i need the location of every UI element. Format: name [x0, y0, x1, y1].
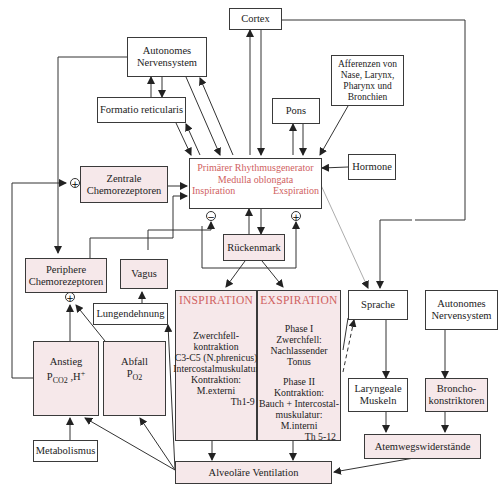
node-zentrale-chemorezeptoren: Zentrale Chemorezeptoren — [80, 166, 168, 203]
inspiration-title: INSPIRATION — [179, 294, 253, 306]
abfall-formula: PO2 — [127, 368, 143, 384]
node-rhythmusgenerator: Primärer Rhythmusgenerator Medulla oblon… — [189, 158, 322, 209]
h-symbol: ,H — [68, 371, 81, 382]
node-atemwegs-label: Atemwegswiderstände — [375, 441, 471, 453]
label-line-4: Bronchien — [348, 92, 388, 103]
plus-superscript: + — [81, 369, 86, 378]
label-line-2: konstriktoren — [429, 395, 485, 407]
label-line-1: Autonomes — [143, 45, 191, 57]
node-cortex: Cortex — [229, 8, 282, 30]
detail-line: Kontraktion: M.externi — [173, 374, 258, 396]
node-cortex-label: Cortex — [241, 13, 270, 25]
label-line-2: Nervensystem — [431, 310, 491, 322]
node-bronchokonstriktoren: Broncho- konstriktoren — [425, 378, 488, 412]
node-pons-label: Pons — [286, 105, 306, 117]
label-line-2: Chemorezeptoren — [87, 185, 162, 197]
node-afferenzen: Afferenzen von Nase, Larynx, Pharynx und… — [331, 55, 404, 106]
node-metabolismus: Metabolismus — [33, 440, 98, 462]
exspiration-title: EXSPIRATION — [260, 294, 337, 306]
exspiration-details: Phase I Zwerchfell: Nachlassender Tonus … — [258, 323, 340, 442]
detail-line: Th 5-12 — [258, 431, 340, 442]
node-hormone: Hormone — [348, 154, 396, 180]
label-line-2: Muskeln — [360, 395, 397, 407]
node-formatio-label: Formatio reticularis — [100, 104, 183, 116]
rhythm-exspiration: Exspiration — [273, 185, 319, 197]
detail-line: Intercostalmuskulatur — [173, 363, 258, 374]
detail-line: Nachlassender Tonus — [258, 345, 340, 367]
node-sprache-label: Sprache — [361, 299, 395, 311]
rhythm-subtitle: Medulla oblongata — [218, 174, 293, 186]
node-formatio-reticularis: Formatio reticularis — [97, 97, 186, 123]
plus-symbol-periphere: + — [65, 292, 75, 302]
node-vagus: Vagus — [120, 259, 168, 289]
label-line-1: Autonomes — [437, 298, 485, 310]
o2-subscript: O2 — [133, 373, 143, 382]
detail-line: Zwerchfell: — [258, 334, 340, 345]
node-autonomes-nervensystem-right: Autonomes Nervensystem — [425, 290, 498, 330]
label-line-2: Chemorezeptoren — [29, 276, 104, 288]
node-atemwegswiderstaende: Atemwegswiderstände — [364, 434, 481, 459]
spacer — [258, 367, 340, 376]
node-periphere-chemorezeptoren: Periphere Chemorezeptoren — [25, 258, 107, 293]
detail-line: kontraktion — [173, 341, 258, 352]
anstieg-formula: PCO2 ,H+ — [47, 368, 85, 387]
node-rueckenmark-label: Rückenmark — [227, 242, 281, 254]
rhythm-title: Primärer Rhythmusgenerator — [197, 162, 313, 174]
detail-line: muskulatur: M.interni — [258, 409, 340, 431]
node-alveolaere-ventilation: Alveoläre Ventilation — [175, 461, 332, 484]
plus-symbol-zentrale: + — [70, 178, 80, 188]
node-autonomes-nervensystem-top: Autonomes Nervensystem — [127, 37, 207, 77]
node-sprache: Sprache — [348, 290, 408, 320]
detail-line: C3-C5 (N.phrenicus) — [173, 352, 258, 363]
node-anstieg-pco2: Anstieg PCO2 ,H+ — [33, 341, 99, 416]
minus-symbol: − — [206, 211, 216, 221]
label-line-1: Laryngeale — [354, 383, 401, 395]
label-line-1: Periphere — [46, 264, 86, 276]
detail-line: Phase II — [258, 376, 340, 387]
node-hormone-label: Hormone — [352, 161, 392, 173]
rhythm-inspiration: Inspiration — [192, 185, 235, 197]
label-line-2: Nervensystem — [137, 57, 197, 69]
detail-line: Bauch + Intercostal- — [258, 398, 340, 409]
detail-line: Th1-9 — [173, 396, 258, 407]
label-line-1: Zentrale — [107, 173, 142, 185]
node-rueckenmark: Rückenmark — [223, 234, 285, 261]
node-laryngeale-muskeln: Laryngeale Muskeln — [348, 378, 408, 412]
label-line-3: Pharynx und — [343, 81, 391, 92]
co2-subscript: CO2 — [53, 376, 68, 385]
inspiration-details: Zwerchfell- kontraktion C3-C5 (N.phrenic… — [173, 330, 258, 407]
respiration-control-diagram: Cortex Autonomes Nervensystem Formatio r… — [0, 0, 498, 491]
detail-line: Phase I — [258, 323, 340, 334]
detail-line: Kontraktion: — [258, 387, 340, 398]
node-vagus-label: Vagus — [131, 268, 157, 280]
node-pons: Pons — [272, 98, 320, 124]
detail-line: Zwerchfell- — [173, 330, 258, 341]
node-alveolaere-label: Alveoläre Ventilation — [209, 467, 299, 479]
label-line-1: Afferenzen von — [338, 59, 397, 70]
node-metabolismus-label: Metabolismus — [36, 445, 96, 457]
label-line-1: Broncho- — [437, 383, 477, 395]
plus-symbol-exspiration: + — [291, 211, 301, 221]
anstieg-label: Anstieg — [50, 356, 83, 368]
label-line-2: Nase, Larynx, — [341, 70, 395, 81]
node-abfall-po2: Abfall PO2 — [103, 341, 166, 416]
node-exspiration: EXSPIRATION Phase I Zwerchfell: Nachlass… — [257, 290, 341, 441]
node-lungendehnung: Lungendehnung — [93, 303, 168, 325]
abfall-label: Abfall — [121, 356, 148, 368]
node-lungendehnung-label: Lungendehnung — [96, 308, 164, 320]
node-inspiration: INSPIRATION Zwerchfell- kontraktion C3-C… — [175, 290, 257, 441]
